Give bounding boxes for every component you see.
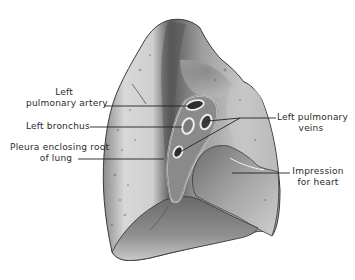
label-pleura-enclosing-root: Pleura enclosing root of lung	[10, 142, 102, 164]
label-line: Left pulmonary	[277, 112, 345, 123]
label-line: veins	[277, 123, 345, 134]
label-left-pulmonary-veins: Left pulmonary veins	[277, 112, 345, 134]
left-lung-illustration	[0, 0, 355, 280]
label-left-bronchus: Left bronchus	[26, 121, 88, 132]
label-line: Impression	[290, 166, 346, 177]
label-line: of lung	[10, 153, 102, 164]
label-line: Pleura enclosing root	[10, 142, 102, 153]
label-left-pulmonary-artery: Left pulmonary artery	[26, 87, 102, 109]
label-line: Left	[26, 87, 102, 98]
label-line: Left bronchus	[26, 121, 88, 132]
label-impression-for-heart: Impression for heart	[290, 166, 346, 188]
label-line: pulmonary artery	[26, 98, 102, 109]
label-line: for heart	[290, 177, 346, 188]
